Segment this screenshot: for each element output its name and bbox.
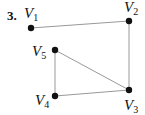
edge-V5-V3 bbox=[55, 50, 129, 90]
vertex-V3 bbox=[126, 87, 132, 93]
problem-number: 3. bbox=[7, 8, 17, 23]
vertex-V5 bbox=[52, 47, 58, 53]
vertex-V4 bbox=[52, 93, 58, 99]
vertex-label-V4: V4 bbox=[35, 92, 49, 110]
graph-diagram: 3. V1V2V3V4V5 bbox=[0, 0, 145, 115]
vertex-V2 bbox=[126, 18, 132, 24]
vertex-label-V3: V3 bbox=[124, 97, 138, 115]
edge-V1-V2 bbox=[31, 21, 129, 28]
vertex-labels: V1V2V3V4V5 bbox=[24, 0, 138, 115]
vertex-label-V1: V1 bbox=[24, 5, 38, 23]
vertex-label-V2: V2 bbox=[124, 0, 138, 17]
edge-V3-V4 bbox=[55, 90, 129, 96]
vertex-label-V5: V5 bbox=[32, 43, 46, 61]
vertex-V1 bbox=[28, 25, 34, 31]
